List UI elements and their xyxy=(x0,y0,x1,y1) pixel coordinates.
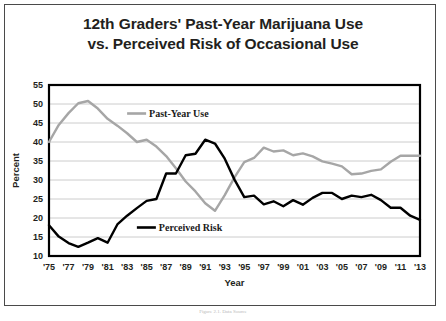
x-axis-tick-label: '95 xyxy=(238,262,250,272)
line-chart: 10152025303540455055'75'77'79'81'83'85'8… xyxy=(0,0,446,321)
plot-area-border xyxy=(49,85,420,256)
x-axis-tick-label: '09 xyxy=(375,262,387,272)
x-axis-tick-label: '85 xyxy=(141,262,153,272)
x-axis-tick-label: '11 xyxy=(395,262,407,272)
y-axis-tick-label: 50 xyxy=(33,99,43,109)
x-axis-tick-label: '13 xyxy=(414,262,426,272)
x-axis-tick-label: '99 xyxy=(277,262,289,272)
x-axis-tick-label: '07 xyxy=(355,262,367,272)
x-axis-tick-label: '81 xyxy=(102,262,114,272)
y-axis-tick-label: 40 xyxy=(33,137,43,147)
y-axis-tick-label: 25 xyxy=(33,194,43,204)
x-axis-tick-label: '79 xyxy=(82,262,94,272)
x-axis-tick-label: '03 xyxy=(316,262,328,272)
y-axis-title: Percent xyxy=(10,152,21,188)
x-axis-title: Year xyxy=(224,277,244,288)
figure-container: 12th Graders' Past-Year Marijuana Use vs… xyxy=(0,0,446,321)
x-axis-tick-label: '97 xyxy=(258,262,270,272)
series-line-past-year-use xyxy=(49,101,420,211)
x-axis-tick-label: '01 xyxy=(297,262,309,272)
x-axis-tick-label: '87 xyxy=(160,262,172,272)
y-axis-tick-label: 20 xyxy=(33,213,43,223)
y-axis-tick-label: 45 xyxy=(33,118,43,128)
y-axis-tick-label: 30 xyxy=(33,175,43,185)
x-axis-tick-label: '75 xyxy=(43,262,55,272)
x-axis-tick-label: '89 xyxy=(180,262,192,272)
x-axis-tick-label: '91 xyxy=(199,262,211,272)
y-axis-tick-label: 55 xyxy=(33,80,43,90)
y-axis-tick-label: 15 xyxy=(33,232,43,242)
figure-caption: Figure 2.1. Data Source xyxy=(0,309,446,314)
series-label: Past-Year Use xyxy=(149,108,209,119)
y-axis-tick-label: 35 xyxy=(33,156,43,166)
x-axis-tick-label: '83 xyxy=(121,262,133,272)
x-axis-tick-label: '77 xyxy=(62,262,74,272)
series-line-perceived-risk xyxy=(49,140,420,247)
y-axis-tick-label: 10 xyxy=(33,251,43,261)
x-axis-tick-label: '93 xyxy=(219,262,231,272)
x-axis-tick-label: '05 xyxy=(336,262,348,272)
series-label: Perceived Risk xyxy=(159,222,223,233)
